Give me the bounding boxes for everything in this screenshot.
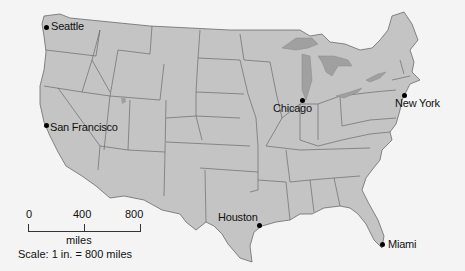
city-label: New York [395, 97, 440, 109]
city-dot-icon [380, 242, 385, 247]
scale-bar: 0 400 800 miles Scale: 1 in. = 800 miles [18, 208, 168, 268]
scale-line [28, 231, 140, 232]
city-label: Houston [218, 211, 258, 223]
city-dot-icon [257, 223, 262, 228]
city-label: Miami [388, 238, 416, 250]
city-dot-icon [44, 123, 49, 128]
scale-units: miles [66, 234, 92, 246]
city-label: Seattle [51, 20, 84, 32]
city-label: San Francisco [50, 121, 118, 133]
scale-tick-400: 400 [73, 208, 91, 220]
scale-tick-800: 800 [125, 208, 143, 220]
scale-ratio: Scale: 1 in. = 800 miles [18, 248, 132, 260]
scale-tick-0: 0 [26, 208, 32, 220]
city-label: Chicago [273, 102, 312, 114]
scale-tick-mark [140, 224, 141, 232]
city-dot-icon [44, 25, 49, 30]
